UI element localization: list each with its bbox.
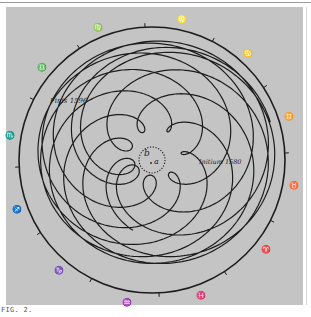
ring-tick [77, 45, 79, 48]
zodiac-aquarius-icon: ♒ [122, 297, 132, 307]
ring-tick [264, 85, 267, 87]
ring-tick [271, 220, 275, 222]
ring-tick [30, 98, 34, 100]
zodiac-leo-icon: ♌ [177, 14, 187, 24]
ring-tick [224, 272, 226, 275]
center-dotted-circle [139, 147, 165, 173]
center-label-a: a [154, 157, 159, 166]
figure-caption: FIG. 2. [1, 306, 33, 314]
zodiac-cancer-icon: ♋ [243, 48, 253, 58]
zodiac-capricorn-icon: ♑ [54, 265, 64, 275]
zodiac-virgo-icon: ♍ [93, 22, 103, 32]
ring-tick [37, 232, 40, 234]
zodiac-sagittarius-icon: ♐ [12, 204, 22, 214]
label-finis: Finis 1596 [49, 97, 88, 105]
ring-tick [212, 38, 214, 42]
center-label-b: b [144, 148, 150, 158]
zodiac-libra-icon: ♎ [37, 62, 47, 72]
zodiac-aries-icon: ♈ [261, 244, 271, 254]
earth-dot [150, 162, 152, 164]
zodiac-scorpio-icon: ♏ [5, 130, 15, 140]
outer-ring [19, 27, 285, 293]
zodiac-taurus-icon: ♉ [289, 180, 299, 190]
zodiac-gemini-icon: ♊ [284, 111, 294, 121]
orbit-diagram: b a Finis 1596 Initium 1580 ♌♍♎♏♐♑♒♓♈♉♊♋ [0, 0, 311, 317]
zodiac-pisces-icon: ♓ [196, 290, 206, 300]
ring-tick [90, 279, 92, 283]
mars-loop-path [38, 41, 275, 263]
label-initium: Initium 1580 [198, 158, 241, 166]
